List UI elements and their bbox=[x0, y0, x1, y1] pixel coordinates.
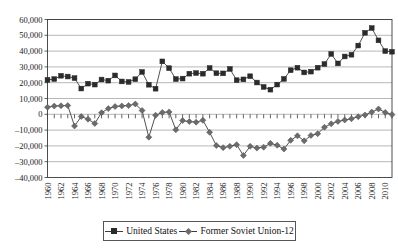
data-point bbox=[65, 103, 71, 109]
data-point bbox=[173, 77, 178, 82]
data-point bbox=[302, 70, 307, 75]
data-point bbox=[72, 76, 77, 81]
data-point bbox=[72, 123, 78, 129]
y-axis-tick-label: 10,000 bbox=[19, 94, 42, 104]
data-point bbox=[187, 71, 192, 76]
x-axis-tick-label: 2002 bbox=[326, 183, 336, 200]
x-axis-tick-label: 2008 bbox=[367, 183, 377, 200]
x-axis-tick-label: 1970 bbox=[110, 183, 120, 200]
data-point bbox=[207, 66, 212, 71]
data-point bbox=[241, 77, 246, 82]
y-axis-tick-label: –40,000 bbox=[14, 173, 43, 183]
data-point bbox=[113, 73, 118, 78]
data-point bbox=[51, 103, 57, 109]
x-axis-tick-label: 1980 bbox=[178, 183, 188, 200]
data-point bbox=[153, 86, 158, 91]
data-point bbox=[65, 74, 70, 79]
data-point bbox=[220, 145, 226, 151]
data-point bbox=[369, 26, 374, 31]
x-axis-tick-label: 1976 bbox=[151, 183, 161, 200]
x-axis-tick-label: 1982 bbox=[191, 183, 201, 200]
data-point bbox=[106, 78, 111, 83]
x-axis-tick-label: 1998 bbox=[299, 183, 309, 200]
data-point bbox=[261, 85, 266, 90]
data-point bbox=[309, 69, 314, 74]
data-point bbox=[153, 112, 159, 118]
legend-item-former-soviet-union-12[interactable]: Former Soviet Union-12 bbox=[179, 226, 293, 236]
x-axis-tick-label: 1962 bbox=[56, 183, 66, 200]
x-axis-tick-label: 1978 bbox=[164, 183, 174, 200]
data-point bbox=[112, 104, 118, 110]
y-axis-tick-label: 20,000 bbox=[19, 78, 42, 88]
data-point bbox=[383, 49, 388, 54]
data-point bbox=[267, 140, 273, 146]
x-axis-tick-label: 2006 bbox=[353, 183, 363, 200]
data-point bbox=[268, 87, 273, 92]
data-point bbox=[342, 117, 348, 123]
data-point bbox=[275, 82, 280, 87]
x-axis-tick-label: 1994 bbox=[272, 182, 282, 200]
x-axis-tick-label: 1996 bbox=[286, 183, 296, 200]
x-axis-tick-label: 2000 bbox=[313, 183, 323, 200]
data-point bbox=[348, 116, 354, 122]
data-point bbox=[105, 106, 111, 112]
x-axis-tick-label: 1988 bbox=[232, 183, 242, 200]
data-point bbox=[234, 142, 240, 148]
data-point bbox=[180, 76, 185, 81]
data-point bbox=[356, 43, 361, 48]
data-point bbox=[227, 67, 232, 72]
data-point bbox=[349, 52, 354, 57]
data-point bbox=[126, 103, 132, 109]
x-axis-tick-label: 1966 bbox=[83, 183, 93, 200]
data-point bbox=[92, 82, 97, 87]
legend-diamond-marker-icon bbox=[179, 227, 197, 235]
y-axis-tick-label: 40,000 bbox=[19, 46, 42, 56]
data-point bbox=[86, 81, 91, 86]
chart-page: 60,00050,00040,00030,00020,00010,0000–10… bbox=[0, 0, 398, 248]
data-point bbox=[52, 77, 57, 82]
data-point bbox=[274, 142, 280, 148]
data-point bbox=[85, 116, 91, 122]
data-point bbox=[92, 120, 98, 126]
data-point bbox=[336, 61, 341, 66]
data-point bbox=[59, 73, 64, 78]
data-point bbox=[58, 103, 64, 109]
data-point bbox=[99, 77, 104, 82]
data-point bbox=[193, 119, 199, 125]
data-point bbox=[255, 80, 260, 85]
x-axis-tick-label: 1968 bbox=[97, 183, 107, 200]
data-point bbox=[119, 79, 124, 84]
legend-item-united-states[interactable]: United States bbox=[105, 226, 177, 236]
data-point bbox=[227, 143, 233, 149]
data-point bbox=[390, 49, 395, 54]
data-point bbox=[389, 112, 395, 118]
y-axis-tick-label: –30,000 bbox=[14, 157, 43, 167]
data-point bbox=[221, 71, 226, 76]
data-point bbox=[375, 106, 381, 112]
chart-plot-area: 60,00050,00040,00030,00020,00010,0000–10… bbox=[0, 0, 398, 210]
data-point bbox=[133, 77, 138, 82]
legend-label-united-states: United States bbox=[126, 226, 177, 236]
data-point bbox=[160, 59, 165, 64]
data-point bbox=[214, 71, 219, 76]
data-point bbox=[362, 112, 368, 118]
y-axis-tick-label: –20,000 bbox=[14, 141, 43, 151]
data-point bbox=[213, 143, 219, 149]
data-point bbox=[99, 110, 105, 116]
data-point bbox=[200, 71, 205, 76]
data-point bbox=[186, 119, 192, 125]
x-axis-tick-label: 1990 bbox=[245, 183, 255, 200]
chart-legend: United States Former Soviet Union-12 bbox=[103, 221, 296, 241]
data-point bbox=[328, 121, 334, 127]
y-axis-tick-label: 30,000 bbox=[19, 62, 42, 72]
data-point bbox=[376, 38, 381, 43]
y-axis-tick-label: 0 bbox=[38, 109, 42, 119]
data-point bbox=[342, 54, 347, 59]
data-point bbox=[146, 134, 152, 140]
data-point bbox=[261, 144, 267, 150]
y-axis-tick-label: 50,000 bbox=[19, 30, 42, 40]
data-point bbox=[329, 52, 334, 57]
data-point bbox=[45, 77, 50, 82]
x-axis-tick-label: 1974 bbox=[137, 182, 147, 200]
x-axis-tick-label: 1984 bbox=[205, 182, 215, 200]
